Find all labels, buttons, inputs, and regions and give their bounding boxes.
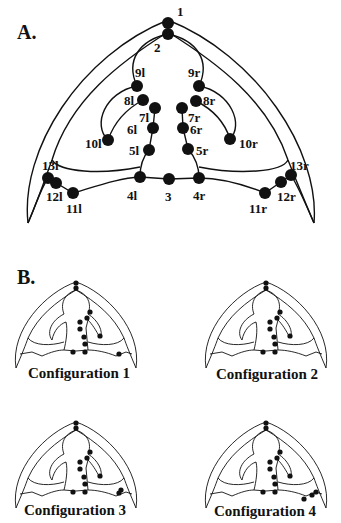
landmark-7l (149, 102, 161, 114)
landmark-label-12r: 12r (277, 189, 296, 204)
landmark-label-6r: 6r (190, 122, 203, 137)
landmark-8r (190, 95, 202, 107)
landmark-5l (143, 144, 155, 156)
landmark-label-7l: 7l (139, 110, 150, 125)
landmark-label-5l: 5l (129, 143, 140, 158)
panel-a-diagram: 129l9r8l8r7l7r6l6r10l10r5l5r4l34r13l12l1… (0, 0, 341, 260)
landmark-label-8r: 8r (203, 93, 216, 108)
config-3-caption: Configuration 3 (24, 502, 126, 519)
landmark-label-13l: 13l (42, 158, 59, 173)
landmark-4r (193, 172, 205, 184)
landmark-label-10l: 10l (85, 136, 102, 151)
landmark-label-12l: 12l (46, 189, 63, 204)
landmark-label-13r: 13r (290, 158, 309, 173)
landmark-8l (137, 94, 149, 106)
landmark-label-2: 2 (154, 40, 161, 55)
config-4-skull (205, 420, 326, 508)
config-2-caption: Configuration 2 (216, 366, 318, 383)
landmark-label-6l: 6l (127, 122, 138, 137)
landmark-11r (259, 187, 271, 199)
landmark-9r (193, 80, 205, 92)
landmark-7r (176, 102, 188, 114)
landmark-10l (102, 134, 114, 146)
landmark-11l (67, 187, 79, 199)
landmark-label-8l: 8l (124, 93, 135, 108)
landmark-label-1: 1 (177, 4, 184, 19)
landmark-label-9l: 9l (135, 65, 146, 80)
landmark-label-9r: 9r (188, 65, 201, 80)
landmark-label-11l: 11l (66, 201, 82, 216)
config-4-caption: Configuration 4 (214, 503, 316, 520)
landmark-label-4l: 4l (127, 188, 138, 203)
config-1-caption: Configuration 1 (28, 365, 130, 382)
landmark-1 (162, 17, 174, 29)
landmark-label-4r: 4r (193, 188, 206, 203)
landmark-label-5r: 5r (196, 143, 209, 158)
landmark-12r (275, 176, 287, 188)
landmark-5r (182, 143, 194, 155)
landmark-2 (162, 28, 174, 40)
landmark-12l (50, 177, 62, 189)
landmark-label-11r: 11r (249, 201, 267, 216)
landmark-label-3: 3 (165, 189, 172, 204)
landmark-label-10r: 10r (239, 136, 258, 151)
panel-b-label: B. (17, 266, 35, 289)
config-3-skull (15, 420, 136, 508)
config-1-skull (15, 280, 136, 368)
landmark-10r (224, 133, 236, 145)
landmark-9l (131, 80, 143, 92)
landmark-4l (134, 171, 146, 183)
config-2-skull (205, 280, 326, 368)
landmark-3 (163, 173, 175, 185)
